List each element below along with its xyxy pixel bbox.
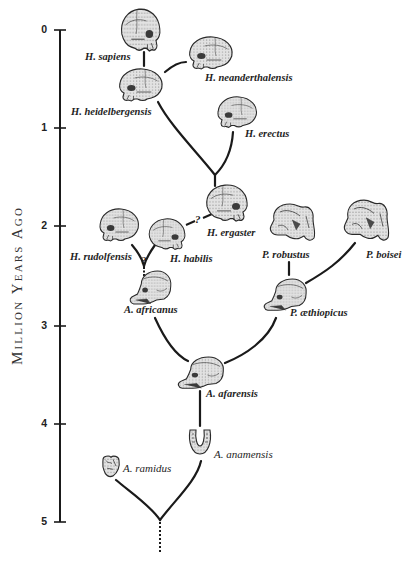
- skull-icon-h-ergaster: [207, 185, 248, 221]
- skull-icon-a-afarensis: [178, 357, 223, 388]
- skull-icon-h-heidelbergensis: [120, 69, 163, 101]
- phylogeny-tree-lines: ? ?: [0, 0, 419, 569]
- label-a-afarensis: A. afarensis: [206, 388, 258, 400]
- label-a-anamensis: A. anamensis: [214, 448, 273, 460]
- label-h-habilis: H. habilis: [170, 253, 213, 265]
- skull-icon-a-ramidus: [103, 456, 120, 477]
- tick-label-1: 1: [33, 121, 47, 133]
- label-p-aethiopicus: P. æthiopicus: [290, 307, 348, 319]
- svg-text:?: ?: [141, 254, 147, 266]
- skull-icon-p-robustus: [270, 204, 314, 240]
- skull-icon-a-anamensis: [189, 430, 210, 454]
- tick-label-5: 5: [33, 515, 47, 527]
- svg-text:?: ?: [195, 213, 201, 225]
- axis-title-text: Million Years Ago: [10, 205, 27, 364]
- skull-icon-h-habilis: [149, 219, 185, 249]
- tick-label-2: 2: [33, 219, 47, 231]
- skull-icon-p-aethiopicus: [264, 279, 306, 310]
- tick-label-3: 3: [33, 319, 47, 331]
- label-a-ramidus: A. ramidus: [123, 462, 171, 474]
- label-h-rudolfensis: H. rudolfensis: [70, 251, 132, 263]
- time-axis: [54, 30, 66, 522]
- label-h-neanderthalensis: H. neanderthalensis: [205, 72, 293, 84]
- skull-icon-h-neanderthalensis: [190, 37, 233, 69]
- label-h-sapiens: H. sapiens: [85, 51, 131, 63]
- label-h-heidelbergensis: H. heidelbergensis: [71, 106, 152, 118]
- label-h-erectus: H. erectus: [245, 128, 289, 140]
- tick-label-0: 0: [33, 23, 47, 35]
- skull-icon-h-erectus: [218, 97, 256, 127]
- uncertain-link-africanus: ?: [141, 254, 147, 276]
- label-h-ergaster: H. ergaster: [207, 227, 255, 239]
- label-p-boisei: P. boisei: [366, 249, 401, 261]
- skull-icon-a-africanus: [130, 271, 171, 304]
- hominin-phylogeny-diagram: ? ? Million Years Ago 0 1 2 3 4 5 H. sap…: [0, 0, 419, 569]
- skull-icon-h-rudolfensis: [100, 209, 138, 241]
- label-a-africanus: A. africanus: [124, 304, 178, 316]
- skull-icon-h-sapiens: [122, 9, 160, 51]
- label-p-robustus: P. robustus: [262, 249, 310, 261]
- skull-icon-p-boisei: [344, 200, 388, 240]
- tick-label-4: 4: [33, 417, 47, 429]
- uncertain-link-habilis-ergaster: ?: [186, 213, 212, 225]
- axis-title: Million Years Ago: [3, 185, 33, 385]
